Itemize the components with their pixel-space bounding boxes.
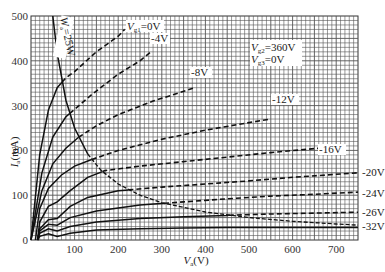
x-axis-label: Va(V) — [183, 254, 208, 268]
x-tick: 200 — [110, 243, 127, 255]
curve-label-minus16v: -16V — [319, 143, 342, 155]
x-tick: 300 — [154, 243, 171, 255]
tube-characteristic-chart: 0100200300400500 100200300400500600700 I… — [0, 0, 385, 272]
curve-label-minus12v: -12V — [272, 93, 295, 105]
condition-vg3: Vg3=0V — [251, 53, 284, 67]
x-tick: 700 — [328, 243, 345, 255]
y-tick: 500 — [12, 10, 29, 22]
curve-label-minus20v: -20V — [362, 166, 385, 178]
x-tick: 600 — [284, 243, 301, 255]
curve-label-minus8v: -8V — [191, 66, 208, 78]
curve-label-minus4v: -4V — [151, 32, 168, 44]
y-tick: 400 — [12, 55, 29, 67]
y-tick: 300 — [12, 100, 29, 112]
y-tick: 100 — [12, 189, 29, 201]
curve-label-minus32v: -32V — [362, 220, 385, 232]
curve-label-minus26v: -26V — [362, 206, 385, 218]
x-tick: 100 — [66, 243, 83, 255]
y-axis-label: Ia(mA) — [8, 136, 22, 168]
curve-label-minus24v: -24V — [362, 187, 385, 199]
x-tick: 500 — [241, 243, 258, 255]
plot-grid — [31, 16, 358, 240]
y-tick-labels: 0100200300400500 — [12, 10, 29, 246]
y-tick: 0 — [23, 234, 29, 246]
